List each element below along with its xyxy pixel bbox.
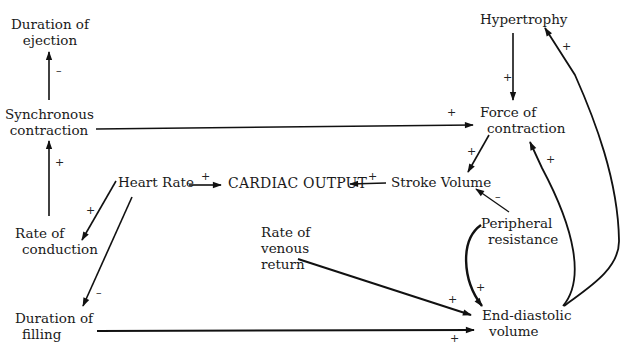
node-label: Synchronous (5, 106, 93, 122)
sign-edv-force: + (546, 154, 555, 165)
sign-venous-edv: + (448, 294, 457, 305)
sign-ejection: – (56, 65, 62, 76)
node-cardiac-output: CARDIAC OUTPUT (228, 175, 367, 191)
node-label: return (261, 256, 310, 272)
sign-conduction-sync: + (55, 157, 64, 168)
sign-hr-co: + (201, 171, 210, 182)
node-label: CARDIAC OUTPUT (228, 175, 367, 191)
sign-pr-edv: + (476, 282, 485, 293)
node-rate-of-conduction: Rate of conduction (15, 225, 98, 257)
sign-hr-conduction: + (86, 205, 95, 216)
arrow-venous-to-edv (298, 259, 471, 315)
node-label: filling (15, 326, 93, 342)
sign-filling-edv: + (450, 333, 459, 344)
node-end-diastolic-volume: End-diastolic volume (482, 307, 571, 339)
node-label: Duration of (15, 310, 93, 326)
node-label: Peripheral (481, 215, 558, 231)
node-label: Rate of (15, 225, 98, 241)
node-label: conduction (15, 241, 98, 257)
cardiac-output-diagram: Duration of ejection Synchronous contrac… (0, 0, 632, 349)
sign-hr-filling: – (96, 287, 102, 298)
node-label: volume (482, 323, 571, 339)
node-label: Stroke Volume (391, 174, 491, 190)
node-synchronous-contraction: Synchronous contraction (5, 106, 93, 138)
node-label: Hypertrophy (480, 11, 567, 27)
node-duration-of-ejection: Duration of ejection (10, 16, 90, 48)
node-label: Duration of (10, 16, 90, 32)
node-label: Rate of (261, 224, 310, 240)
sign-pr-sv: – (495, 191, 501, 202)
sign-sync-force: + (447, 107, 456, 118)
sign-sv-co: + (368, 171, 377, 182)
arrow-pr-to-sv (476, 189, 509, 212)
sign-force-sv: + (467, 146, 476, 157)
node-force-of-contraction: Force of contraction (480, 104, 565, 136)
node-stroke-volume: Stroke Volume (391, 174, 491, 190)
node-label: contraction (5, 122, 93, 138)
node-duration-of-filling: Duration of filling (15, 310, 93, 342)
arrow-edv-to-hyper (545, 28, 619, 306)
node-hypertrophy: Hypertrophy (480, 11, 567, 27)
node-label: End-diastolic (482, 307, 571, 323)
node-label: resistance (481, 231, 558, 247)
node-peripheral-resistance: Peripheral resistance (481, 215, 558, 247)
sign-hyper-force: + (503, 72, 512, 83)
node-label: ejection (10, 32, 90, 48)
node-label: Heart Rate (118, 174, 194, 190)
node-heart-rate: Heart Rate (118, 174, 194, 190)
node-rate-of-venous-return: Rate of venous return (261, 224, 310, 272)
node-label: contraction (480, 120, 565, 136)
node-label: venous (261, 240, 310, 256)
node-label: Force of (480, 104, 565, 120)
sign-edv-hyper: + (562, 41, 571, 52)
arrow-filling-to-edv (97, 330, 474, 331)
arrow-sync-to-force (96, 125, 473, 129)
